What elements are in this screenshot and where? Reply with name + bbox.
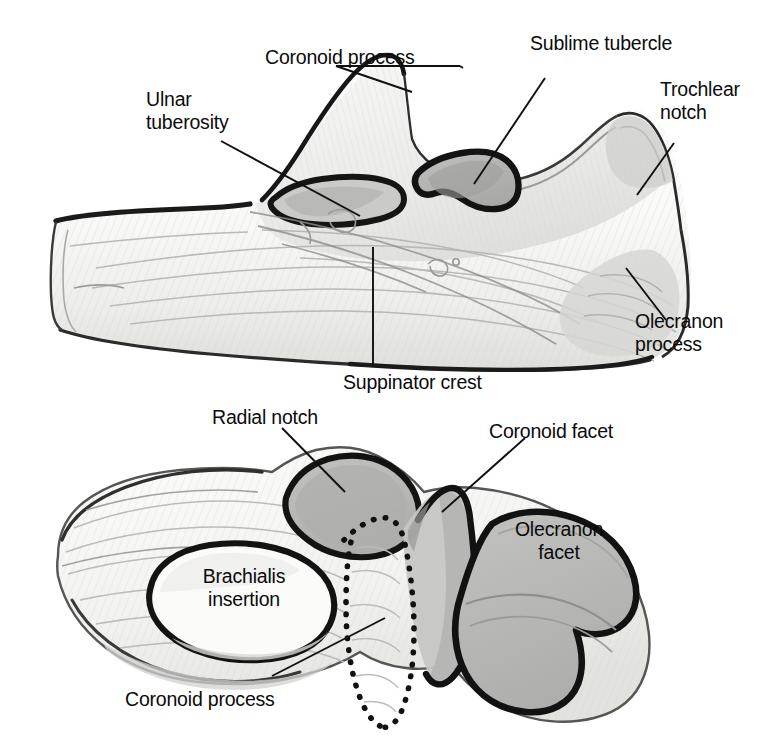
label-coronoid-process-lower: Coronoid process: [125, 688, 275, 711]
leader-coronoid-process-2: [460, 66, 463, 68]
anatomy-figure-page: Coronoid process Sublime tubercle Trochl…: [0, 0, 776, 738]
label-olecranon-facet: Olecranon facet: [497, 518, 621, 564]
label-coronoid-facet: Coronoid facet: [489, 420, 613, 443]
label-trochlear-notch: Trochlear notch: [660, 78, 740, 124]
label-coronoid-process-upper: Coronoid process: [265, 46, 415, 69]
label-olecranon-process: Olecranon process: [635, 310, 723, 356]
label-sublime-tubercle: Sublime tubercle: [530, 32, 672, 55]
panel-articular-view: [57, 447, 649, 727]
label-ulnar-tuberosity: Ulnar tuberosity: [146, 88, 229, 134]
label-radial-notch: Radial notch: [212, 406, 318, 429]
label-suppinator-crest: Suppinator crest: [343, 371, 482, 394]
label-brachialis-insertion: Brachialis insertion: [183, 565, 305, 611]
